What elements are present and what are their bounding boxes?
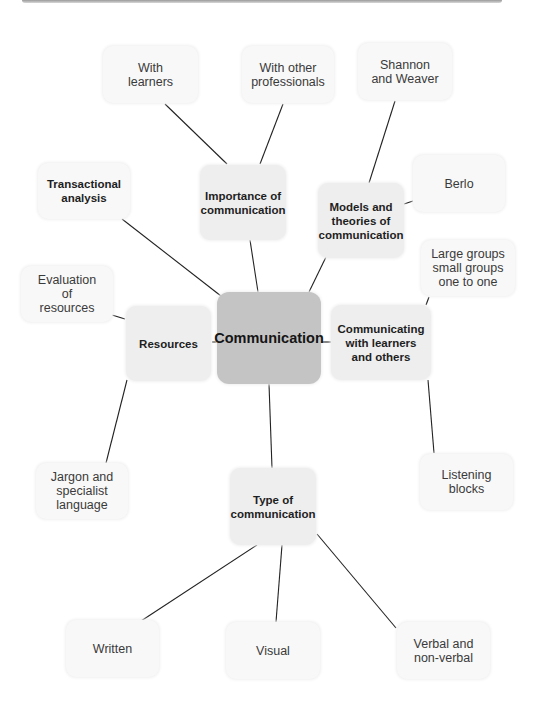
- node-with-other-professionals: With other professionals: [242, 46, 334, 103]
- node-label: Listening blocks: [441, 468, 491, 496]
- node-berlo: Berlo: [413, 155, 505, 212]
- node-communicating-with-learners: Communicating with learners and others: [331, 305, 431, 380]
- node-jargon-and-specialist-language: Jargon and specialist language: [36, 463, 128, 519]
- node-label: Written: [93, 642, 132, 656]
- node-label: Large groups small groups one to one: [431, 247, 505, 289]
- node-label: Visual: [256, 644, 290, 658]
- edge-importance-learners: [165, 104, 227, 164]
- node-label: Verbal and non-verbal: [414, 637, 474, 665]
- edge-type-verbal: [317, 534, 396, 628]
- edge-communicating-groups: [426, 297, 429, 305]
- edge-communicating-listening: [428, 380, 434, 453]
- edge-models-shannon: [369, 101, 395, 183]
- node-importance-of-communication: Importance of communication: [200, 165, 286, 240]
- node-models-and-theories: Models and theories of communication: [318, 183, 404, 258]
- node-written: Written: [66, 620, 159, 677]
- node-label: Evaluation of resources: [38, 273, 96, 315]
- node-resources: Resources: [126, 306, 211, 381]
- node-label: With learners: [128, 61, 173, 89]
- edge-communication-models: [309, 257, 326, 292]
- node-label: Resources: [139, 337, 198, 351]
- edge-importance-professionals: [260, 104, 283, 164]
- node-visual: Visual: [226, 622, 320, 679]
- node-verbal-and-non-verbal: Verbal and non-verbal: [397, 622, 490, 679]
- node-evaluation-of-resources: Evaluation of resources: [21, 266, 113, 322]
- node-label: Models and theories of communication: [319, 200, 404, 242]
- node-label: Communicating with learners and others: [338, 322, 425, 364]
- node-communication: Communication: [217, 292, 321, 384]
- node-transactional-analysis: Transactional analysis: [38, 163, 130, 219]
- edge-resources-jargon: [106, 380, 127, 463]
- node-listening-blocks: Listening blocks: [420, 454, 513, 510]
- edge-resources-evaluation: [112, 315, 125, 319]
- edge-type-written: [141, 545, 257, 621]
- edge-communication-importance: [250, 240, 258, 292]
- node-label: Jargon and specialist language: [51, 470, 114, 512]
- node-label: Importance of communication: [201, 189, 286, 217]
- node-shannon-and-weaver: Shannon and Weaver: [358, 43, 452, 100]
- edge-communication-type: [269, 384, 272, 468]
- node-type-of-communication: Type of communication: [230, 468, 316, 545]
- node-label: Transactional analysis: [47, 177, 121, 205]
- edge-models-berlo: [404, 201, 413, 204]
- node-group-sizes: Large groups small groups one to one: [421, 240, 515, 296]
- node-label: With other professionals: [251, 61, 325, 89]
- node-label: Shannon and Weaver: [371, 58, 438, 86]
- node-label: Communication: [214, 331, 324, 345]
- edge-type-visual: [276, 545, 282, 622]
- node-with-learners: With learners: [103, 46, 198, 103]
- node-label: Type of communication: [231, 493, 316, 521]
- node-label: Berlo: [444, 177, 473, 191]
